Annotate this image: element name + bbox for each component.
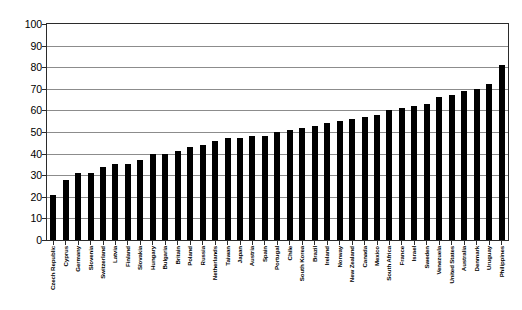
x-axis-tick-label: Israel [411, 246, 417, 261]
x-axis-label-slot: Czech Republic [50, 246, 56, 308]
x-axis-tick-label: Denmark [474, 246, 480, 271]
x-axis-label-slot: Russia [200, 246, 206, 308]
x-axis-tick-label: Canada [362, 246, 368, 267]
bar [212, 141, 218, 240]
x-axis-label-slot: Chile [287, 246, 293, 308]
x-axis-label-slot: Norway [337, 246, 343, 308]
x-axis-tick-label: Slovakia [137, 246, 143, 270]
x-axis-tick-label: Bulgaria [162, 246, 168, 270]
x-axis-label-slot: Netherlands [212, 246, 218, 308]
bar [274, 132, 280, 240]
x-axis-label-slot: Britain [175, 246, 181, 308]
x-axis-tick-mark [451, 241, 452, 245]
x-axis-tick-mark [302, 241, 303, 245]
x-axis-tick-mark [439, 241, 440, 245]
bar [312, 126, 318, 240]
x-axis-tick-mark [53, 241, 54, 245]
x-axis-tick-mark [277, 241, 278, 245]
x-axis-tick-label: Norway [337, 246, 343, 267]
x-axis-tick-label: Mexico [374, 246, 380, 266]
x-axis-label-slot: Poland [187, 246, 193, 308]
x-axis-tick-mark [339, 241, 340, 245]
bar [200, 145, 206, 240]
x-axis-tick-label: Germany [75, 246, 81, 272]
x-axis-label-slot: New Zealand [349, 246, 355, 308]
x-axis-tick-mark [90, 241, 91, 245]
x-axis-tick-label: Switzerland [100, 246, 106, 279]
bar [75, 173, 81, 240]
x-axis-tick-mark [389, 241, 390, 245]
x-axis-tick-label: Japan [237, 246, 243, 263]
x-axis-label-slot: United States [449, 246, 455, 308]
x-axis-tick-label: Russia [200, 246, 206, 265]
bar [187, 147, 193, 240]
x-axis-tick-mark [202, 241, 203, 245]
bar [225, 138, 231, 240]
x-axis-label-slot: Australia [461, 246, 467, 308]
x-axis-tick-label: Poland [187, 246, 193, 266]
bar [150, 154, 156, 240]
x-axis-label-slot: Venezuela [436, 246, 442, 308]
x-axis-tick-mark [489, 241, 490, 245]
x-axis-label-slot: Portugal [274, 246, 280, 308]
x-axis-tick-label: Portugal [274, 246, 280, 270]
bar [88, 173, 94, 240]
x-axis-label-slot: Canada [362, 246, 368, 308]
x-axis-label-slot: France [399, 246, 405, 308]
x-axis-tick-label: Venezuela [436, 246, 442, 275]
bar [162, 154, 168, 240]
x-axis-tick-label: Finland [125, 246, 131, 267]
bar [424, 104, 430, 240]
bar [411, 106, 417, 240]
bar [175, 151, 181, 240]
x-axis-tick-mark [426, 241, 427, 245]
x-axis-tick-mark [414, 241, 415, 245]
x-axis-tick-mark [476, 241, 477, 245]
x-axis-tick-label: Slovenia [88, 246, 94, 270]
x-axis-tick-label: Taiwan [225, 246, 231, 266]
x-axis-tick-mark [401, 241, 402, 245]
x-axis-tick-label: United States [449, 246, 455, 284]
bar [125, 164, 131, 240]
bar [486, 84, 492, 240]
bar [474, 89, 480, 240]
x-axis-label-slot: Switzerland [100, 246, 106, 308]
x-axis-tick-label: Cyprus [63, 246, 69, 266]
x-axis-tick-label: Ireland [324, 246, 330, 265]
x-axis-tick-mark [190, 241, 191, 245]
bar-chart: 1009080706050403020100 Czech RepublicCyp… [0, 0, 522, 310]
x-axis-tick-mark [103, 241, 104, 245]
bar [399, 108, 405, 240]
x-axis-tick-label: Spain [262, 246, 268, 262]
x-axis-tick-mark [501, 241, 502, 245]
x-axis-tick-label: Uruguay [486, 246, 492, 270]
x-axis-label-slot: Spain [262, 246, 268, 308]
x-axis-label-slot: Finland [125, 246, 131, 308]
bar [362, 117, 368, 240]
x-axis-label-slot: Hungary [150, 246, 156, 308]
x-axis-tick-label: Sweden [424, 246, 430, 268]
x-axis-tick-mark [352, 241, 353, 245]
x-axis-tick-label: Australia [461, 246, 467, 271]
bar [499, 65, 505, 240]
x-axis-label-slot: South Africa [386, 246, 392, 308]
x-axis-tick-mark [252, 241, 253, 245]
bar [461, 91, 467, 240]
x-axis-label-slot: Taiwan [225, 246, 231, 308]
x-axis-tick-label: Chile [287, 246, 293, 260]
x-axis-tick-marks [47, 241, 508, 245]
x-axis-label-slot: Sweden [424, 246, 430, 308]
x-axis-tick-mark [127, 241, 128, 245]
x-axis-label-slot: Israel [411, 246, 417, 308]
bar [100, 167, 106, 240]
x-axis-label-slot: Brazil [312, 246, 318, 308]
x-axis-label-slot: Mexico [374, 246, 380, 308]
x-axis-tick-label: Czech Republic [50, 246, 56, 290]
bar [63, 180, 69, 240]
x-axis-label-slot: South Korea [299, 246, 305, 308]
x-axis-label-slot: Uruguay [486, 246, 492, 308]
y-axis-tick-marks [0, 23, 46, 241]
x-axis-label-slot: Denmark [474, 246, 480, 308]
bar [249, 136, 255, 240]
bar [299, 128, 305, 240]
